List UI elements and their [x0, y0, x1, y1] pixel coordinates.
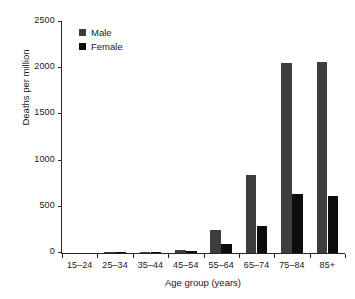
bar-female-55-64	[221, 244, 232, 253]
bar-male-65-74	[246, 175, 257, 253]
bar-female-35-44	[151, 252, 162, 253]
x-tick-mark	[133, 254, 134, 258]
x-tick-mark	[97, 254, 98, 258]
bar-female-25-34	[115, 252, 126, 253]
male-swatch-icon	[79, 29, 86, 36]
legend-item-male: Male	[79, 26, 123, 39]
x-tick-mark	[274, 254, 275, 258]
legend-label-male: Male	[91, 27, 112, 38]
x-tick-mark	[204, 254, 205, 258]
y-tick-label: 1000	[34, 154, 55, 164]
bar-female-75-84	[292, 194, 303, 253]
x-tick-mark	[62, 254, 63, 258]
x-tick-label: 55–64	[208, 260, 234, 271]
bar-female-85+	[328, 196, 339, 253]
y-tick-label: 0	[50, 246, 55, 256]
x-axis-title: Age group (years)	[61, 277, 345, 288]
y-tick-label: 2000	[34, 61, 55, 71]
bar-male-35-44	[140, 252, 151, 253]
chart-legend: Male Female	[79, 26, 123, 54]
y-tick-label: 1500	[34, 107, 55, 117]
x-tick-mark	[239, 254, 240, 258]
legend-label-female: Female	[91, 41, 123, 52]
x-tick-label: 65–74	[244, 260, 270, 271]
bar-female-65-74	[257, 226, 268, 253]
x-tick-label: 35–44	[138, 260, 164, 271]
bar-female-45-54	[186, 251, 197, 253]
plot-area	[62, 22, 345, 253]
y-tick-label: 2500	[34, 15, 55, 25]
x-tick-label: 25–34	[102, 260, 128, 271]
x-tick-label: 75–84	[279, 260, 305, 271]
female-swatch-icon	[79, 43, 86, 50]
y-tick-label: 500	[39, 200, 55, 210]
x-tick-mark	[345, 254, 346, 258]
bar-male-85+	[317, 62, 328, 253]
x-tick-label: 45–54	[173, 260, 199, 271]
x-tick-label: 15–24	[67, 260, 93, 271]
bar-male-25-34	[104, 252, 115, 253]
bar-chart: 05001000150020002500 15–2425–3435–4445–5…	[0, 0, 355, 299]
x-tick-label: 85+	[320, 260, 336, 271]
legend-item-female: Female	[79, 40, 123, 53]
x-tick-mark	[310, 254, 311, 258]
bar-male-75-84	[281, 63, 292, 253]
x-tick-mark	[168, 254, 169, 258]
y-axis-title: Deaths per million	[20, 28, 31, 148]
bar-male-45-54	[175, 250, 186, 254]
bar-male-55-64	[210, 230, 221, 253]
